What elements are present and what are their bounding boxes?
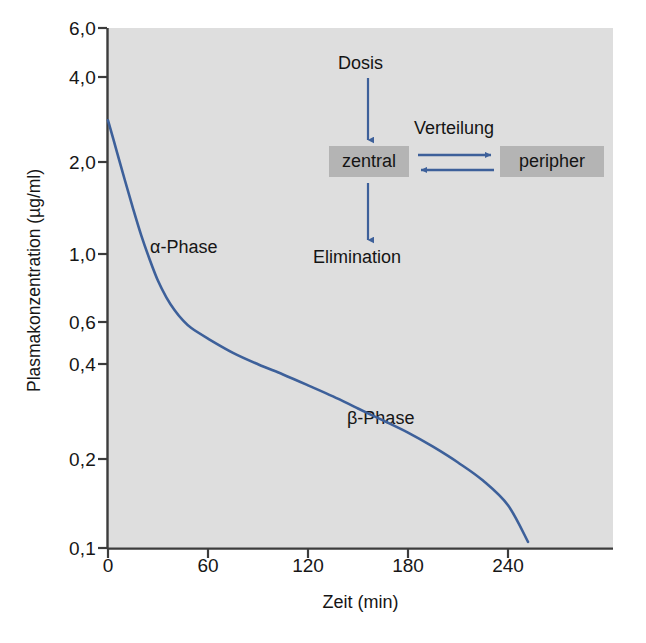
plasma-concentration-curve	[108, 120, 528, 541]
figure-vector-layer	[0, 0, 646, 643]
pharmacokinetics-figure: 6,0 4,0 2,0 1,0 0,6 0,4 0,2 0,1 0 60 120…	[0, 0, 646, 643]
x-axis-ticks	[108, 549, 508, 558]
y-axis-ticks	[98, 28, 107, 548]
